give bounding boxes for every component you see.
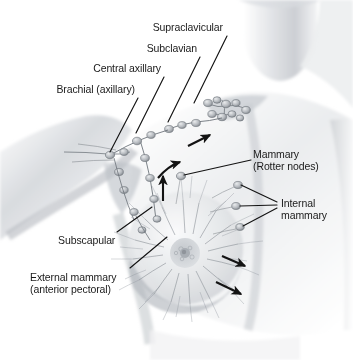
label-supraclavicular: Supraclavicular [118, 22, 223, 34]
label-subclavian: Subclavian [105, 43, 197, 55]
label-external-mammary-anterior-pectoral: External mammary (anterior pectoral) [30, 272, 156, 295]
label-mammary-rotter-nodes: Mammary (Rotter nodes) [253, 149, 349, 172]
label-central-axillary: Central axillary [54, 63, 161, 75]
areola [170, 238, 200, 268]
lymphatic-drainage-figure: Supraclavicular Subclavian Central axill… [0, 0, 353, 360]
label-internal-mammary: Internal mammary [281, 198, 351, 221]
leader-supraclavicular [194, 36, 227, 103]
label-subscapular: Subscapular [58, 235, 144, 247]
label-brachial-axillary: Brachial (axillary) [12, 84, 135, 96]
